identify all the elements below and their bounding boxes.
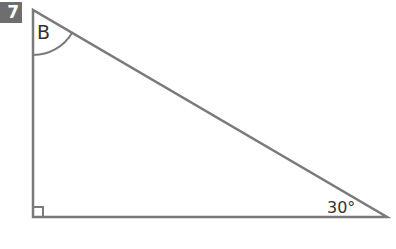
angle-label-30: 30° <box>327 198 355 217</box>
triangle-diagram: B 30° <box>0 0 396 249</box>
right-angle-marker <box>33 207 43 217</box>
triangle-outline <box>33 10 387 217</box>
vertex-label-b: B <box>37 21 50 43</box>
